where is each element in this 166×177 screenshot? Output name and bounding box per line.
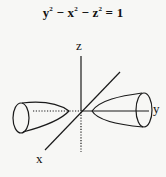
left-sheet-bottom xyxy=(23,111,69,132)
right-sheet-rim xyxy=(136,93,152,127)
x-axis-label: x xyxy=(36,151,43,167)
right-sheet-top xyxy=(92,93,142,111)
left-sheet-rim xyxy=(13,103,29,133)
left-sheet-top xyxy=(22,102,69,111)
y-axis-label: y xyxy=(153,101,160,117)
right-sheet-bottom xyxy=(92,111,143,127)
z-axis-label: z xyxy=(76,38,82,54)
hyperboloid-diagram xyxy=(0,0,166,177)
